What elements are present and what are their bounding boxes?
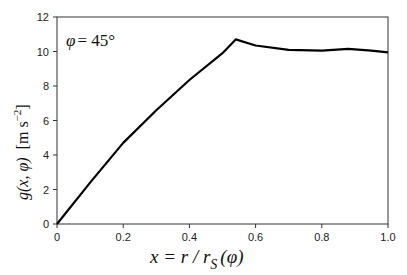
x-tick-label: 0.6 <box>248 231 263 243</box>
y-tick-label: 12 <box>37 11 49 23</box>
data-line <box>57 39 388 224</box>
y-tick-label: 8 <box>43 80 49 92</box>
phi-annotation: φ= 45° <box>66 31 115 50</box>
x-tick-label: 0.2 <box>116 231 131 243</box>
chart: 024681012 00.20.40.60.81.0 φ= 45° x = r … <box>0 0 407 275</box>
x-axis-label: x = r / rS(φ) <box>149 246 244 272</box>
x-axis-ticks: 00.20.40.60.81.0 <box>54 224 396 243</box>
y-tick-label: 0 <box>43 218 49 230</box>
y-tick-label: 6 <box>43 115 49 127</box>
y-tick-label: 10 <box>37 46 49 58</box>
y-axis-label: g(x, φ)[m s−2] <box>11 104 32 200</box>
x-tick-label: 0.4 <box>182 231 197 243</box>
y-tick-label: 2 <box>43 184 49 196</box>
x-tick-label: 0.8 <box>314 231 329 243</box>
y-axis-ticks: 024681012 <box>37 11 57 230</box>
y-tick-label: 4 <box>43 149 49 161</box>
x-tick-label: 0 <box>54 231 60 243</box>
x-tick-label: 1.0 <box>380 231 395 243</box>
